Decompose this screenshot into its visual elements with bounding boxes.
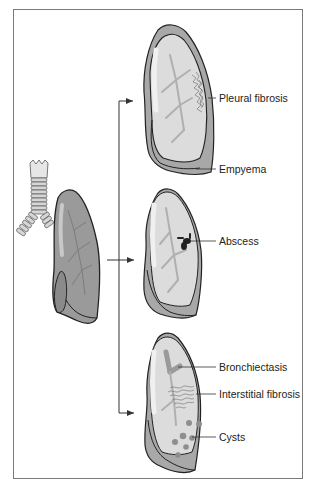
lung-abscess-icon [144, 189, 216, 318]
label-bronchiectasis: Bronchiectasis [219, 361, 287, 373]
label-interstitial-fibrosis: Interstitial fibrosis [219, 388, 300, 400]
lung-pleural-fibrosis-icon [144, 25, 216, 175]
label-abscess: Abscess [219, 235, 259, 247]
diagram-canvas [0, 0, 314, 490]
lung-bronchiectasis-fibrosis-cysts-icon [145, 333, 216, 472]
branching-arrows [107, 101, 134, 413]
label-cysts: Cysts [219, 431, 245, 443]
label-pleural-fibrosis: Pleural fibrosis [219, 92, 288, 104]
normal-lung-icon [53, 190, 100, 323]
label-empyema: Empyema [219, 163, 266, 175]
trachea-icon [16, 160, 54, 237]
